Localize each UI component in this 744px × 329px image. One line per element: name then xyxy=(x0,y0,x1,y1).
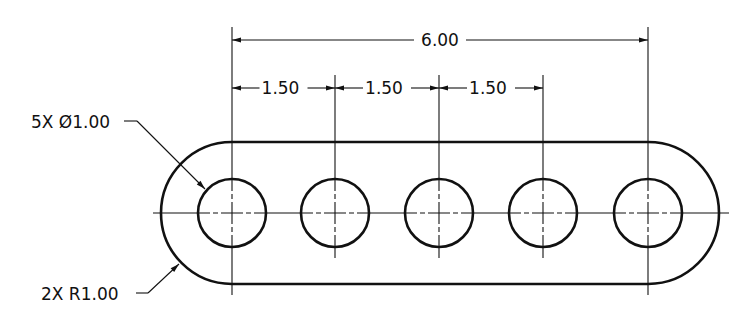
arrowhead-icon xyxy=(335,85,344,90)
end-radius-callout: 2X R1.00 xyxy=(41,284,119,304)
callouts: 5X Ø1.00 2X R1.00 xyxy=(31,112,205,304)
arrowhead-icon xyxy=(430,85,439,90)
arrowhead-icon xyxy=(232,85,241,90)
hole-diameter-callout: 5X Ø1.00 xyxy=(31,112,110,132)
arrowhead-icon xyxy=(326,85,335,90)
arrowhead-icon xyxy=(439,85,448,90)
technical-drawing: 6.00 1.50 1.50 1.50 5X Ø1.00 2X R1.00 xyxy=(0,0,744,329)
pitch-dimension-label-3: 1.50 xyxy=(469,78,507,98)
dimensions: 6.00 1.50 1.50 1.50 xyxy=(232,30,648,98)
pitch-dimension-label-1: 1.50 xyxy=(262,78,300,98)
arrowhead-icon xyxy=(639,37,648,42)
center-lines xyxy=(153,27,729,295)
arrowhead-icon xyxy=(534,85,543,90)
pitch-dimension-label-2: 1.50 xyxy=(365,78,403,98)
arrowhead-icon xyxy=(232,37,241,42)
overall-dimension-label: 6.00 xyxy=(421,30,459,50)
